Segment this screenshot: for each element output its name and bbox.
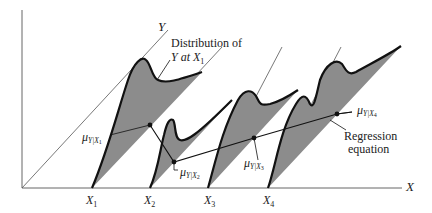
regression-label-line2: equation [348, 142, 389, 156]
x-tick-4: X4 [262, 193, 274, 209]
distribution-label-line2: Y at X1 [171, 50, 204, 66]
mean-label-x4: μY|X4 [356, 103, 377, 118]
x-tick-2: X2 [143, 193, 155, 209]
x-axis-label: X [405, 179, 415, 194]
distribution-label-line1: Distribution of [171, 36, 242, 50]
x-tick-3: X3 [203, 193, 215, 209]
leader-mu4 [337, 112, 352, 114]
leader-distribution [157, 60, 170, 80]
regression-label-line1: Regression [344, 129, 397, 143]
distribution-x4 [268, 46, 401, 188]
regression-diagram: Y X X1 X2 X3 X4 Distribution of Y at X1 … [0, 0, 432, 213]
y-axis-label: Y [158, 19, 167, 34]
x-tick-1: X1 [85, 193, 97, 209]
mean-label-x3: μY|X3 [243, 156, 264, 171]
mean-label-x1: μY|X1 [81, 130, 102, 145]
leader-mu3 [254, 138, 258, 160]
mean-label-x2: μY|X2 [179, 165, 200, 180]
